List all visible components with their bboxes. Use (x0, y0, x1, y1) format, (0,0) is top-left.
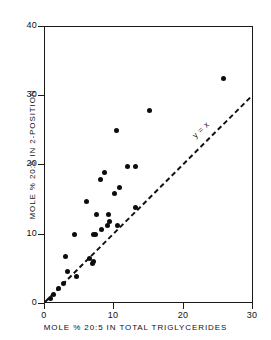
x-tick-label-0: 0 (30, 310, 58, 320)
data-point (125, 164, 130, 169)
data-point (91, 259, 96, 264)
data-point (112, 191, 117, 196)
reference-line-y-equals-x (45, 96, 252, 302)
data-point (102, 170, 107, 175)
x-tick-mark (183, 303, 184, 309)
y-tick-label-40: 40 (9, 20, 37, 30)
x-axis-title: MOLE % 20:5 IN TOTAL TRIGLYCERIDES (0, 323, 271, 332)
x-tick-mark (44, 303, 45, 309)
x-tick-label-20: 20 (169, 310, 197, 320)
data-point (65, 269, 70, 274)
data-point (221, 76, 226, 81)
x-tick-label-30: 30 (238, 310, 266, 320)
x-tick-label-10: 10 (99, 310, 127, 320)
data-point (133, 164, 138, 169)
scatter-plot-figure: 0 10 20 30 40 0 10 20 30 y = x MOLE % 20… (0, 0, 271, 340)
x-tick-mark (113, 303, 114, 309)
y-axis-title: MOLE % 20:5 IN 2-POSITION (28, 35, 37, 275)
data-point (84, 199, 89, 204)
y-tick-label-0: 0 (9, 297, 37, 307)
data-point (99, 227, 104, 232)
plot-area: y = x (44, 26, 253, 303)
data-point (61, 281, 66, 286)
x-tick-mark (252, 303, 253, 309)
data-point (107, 219, 112, 224)
data-layer (45, 27, 252, 302)
data-point (98, 177, 103, 182)
